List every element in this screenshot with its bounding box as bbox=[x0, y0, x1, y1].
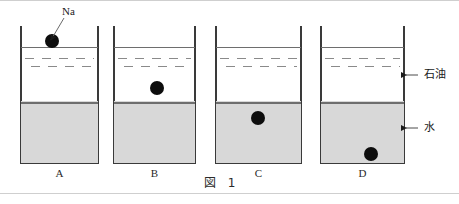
beaker-d-water-body bbox=[321, 101, 404, 163]
beaker-a-oil-surface bbox=[21, 47, 98, 48]
na-label: Na bbox=[62, 5, 75, 17]
beaker-caption-d: D bbox=[320, 167, 405, 179]
beaker-c-water-surface bbox=[216, 102, 301, 104]
beaker-a-water-surface bbox=[21, 102, 98, 104]
beaker-b-oil-hatch-2 bbox=[124, 66, 191, 67]
beaker-caption-a: A bbox=[20, 167, 99, 179]
beaker-a-water-body bbox=[21, 101, 98, 163]
beaker-b bbox=[113, 26, 196, 164]
beaker-d-oil-surface bbox=[321, 47, 404, 48]
beaker-d-water-surface bbox=[321, 102, 404, 104]
beaker-a bbox=[20, 26, 99, 164]
beaker-c-oil-surface bbox=[216, 47, 301, 48]
sodium-pellet-d bbox=[364, 147, 378, 161]
beaker-a-oil-hatch-1 bbox=[25, 58, 94, 59]
beaker-b-water-surface bbox=[114, 102, 195, 104]
water-label: 水 bbox=[424, 122, 435, 134]
beaker-d-oil-hatch-1 bbox=[325, 58, 400, 59]
sodium-pellet-a bbox=[45, 34, 59, 48]
beaker-d-oil-hatch-2 bbox=[331, 66, 400, 67]
beaker-c-oil-hatch-2 bbox=[226, 66, 297, 67]
page-rule-bottom bbox=[0, 193, 459, 194]
beaker-b-oil-surface bbox=[114, 47, 195, 48]
sodium-pellet-c bbox=[251, 111, 265, 125]
page-rule-top bbox=[0, 0, 459, 1]
beaker-a-oil-hatch-2 bbox=[31, 66, 94, 67]
beaker-c bbox=[215, 26, 302, 164]
beaker-b-water-body bbox=[114, 101, 195, 163]
figure-caption: 図 1 bbox=[204, 176, 239, 190]
beaker-c-oil-hatch-1 bbox=[220, 58, 297, 59]
beaker-d bbox=[320, 26, 405, 164]
beaker-b-oil-hatch-1 bbox=[118, 58, 191, 59]
beaker-caption-b: B bbox=[113, 167, 196, 179]
sodium-pellet-b bbox=[150, 81, 164, 95]
oil-label: 石油 bbox=[424, 69, 446, 81]
figure-illustration: A B C D bbox=[0, 0, 459, 204]
